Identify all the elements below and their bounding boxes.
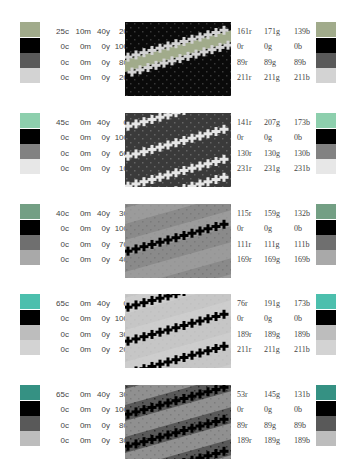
texture-dot [206,295,208,297]
cross-motif [204,349,213,352]
texture-dot [230,261,231,263]
swatch-mid-gray [316,144,336,159]
swatch-light-gray [20,325,40,340]
texture-dot [230,47,231,49]
texture-dot [198,122,200,124]
cross-motif [156,241,165,244]
texture-dot [202,158,204,160]
cross-motif [220,29,229,32]
texture-dot [210,209,212,211]
texture-dot [142,311,144,313]
texture-dot [142,39,144,41]
cross-motif [125,340,133,343]
cmyk-row: 0c0m0y100k [44,402,132,417]
texture-dot [218,174,220,176]
cross-motif [220,158,229,161]
texture-dot [194,422,196,424]
cross-motif [196,352,205,355]
texture-dot [198,114,200,116]
texture-dot [134,23,136,25]
texture-dot [138,414,140,416]
cross-motif [132,303,141,306]
swatch-black [316,401,336,416]
texture-dot [214,63,216,65]
cross-motif [164,433,173,436]
texture-dot [194,83,196,85]
texture-dot [194,174,196,176]
texture-dot [218,414,220,416]
texture-dot [146,166,148,168]
texture-dot [126,237,128,239]
cross-motif [148,299,157,302]
texture-dot [142,87,144,89]
texture-dot [146,75,148,77]
texture-dot [230,410,231,412]
texture-dot [190,71,192,73]
texture-dot [182,162,184,164]
texture-dot [134,261,136,263]
texture-dot [190,154,192,156]
texture-dot [138,166,140,168]
texture-dot [198,23,200,25]
cross-motif [196,165,205,168]
cross-motif [176,57,185,60]
texture-dot [126,386,128,388]
cross-motif [132,122,141,125]
right-swatch-stack [316,204,336,265]
texture-dot [134,114,136,116]
texture-dot [226,27,228,29]
right-swatch-stack [316,22,336,83]
texture-dot [158,351,160,353]
texture-dot [202,241,204,243]
cross-motif [132,247,141,250]
cross-motif [216,46,225,49]
texture-dot [198,303,200,305]
texture-dot [186,67,188,69]
texture-dot [134,319,136,321]
texture-dot [162,75,164,77]
texture-dot [210,363,212,365]
texture-dot [202,27,204,29]
rgb-row: 0r0g0b [237,39,319,54]
texture-dot [230,229,231,231]
texture-dot [150,261,152,263]
texture-dot [178,67,180,69]
texture-dot [190,122,192,124]
texture-dot [198,71,200,73]
texture-dot [214,245,216,247]
texture-dot [142,261,144,263]
rgb-row: 231r231g231b [237,161,319,176]
cross-motif [164,360,173,363]
swatch-black [20,310,40,325]
texture-dot [230,55,231,57]
cross-motif [140,408,149,411]
texture-dot [194,339,196,341]
texture-dot [166,245,168,247]
texture-dot [134,146,136,148]
texture-dot [178,454,180,456]
texture-dot [198,95,200,96]
texture-dot [194,134,196,136]
cross-motif [180,356,189,359]
texture-dot [134,170,136,172]
texture-dot [206,205,208,207]
texture-dot [130,347,132,349]
swatch-dark-gray [20,235,40,250]
texture-dot [138,438,140,440]
rgb-values: 161r171g139b 0r0g0b 89r89g89b 211r211g21… [237,24,319,85]
swatch-light-gray [20,159,40,174]
texture-dot [198,154,200,156]
texture-dot [230,450,231,452]
cross-motif [140,51,149,54]
cross-motif [212,452,221,455]
cmyk-values: 65c0m40y0k 0c0m0y100k 0c0m0y30k 0c0m0y20… [44,296,132,357]
texture-dot [142,79,144,81]
texture-dot [150,71,152,73]
texture-dot [218,363,220,365]
cmyk-values: 65c0m40y30k 0c0m0y100k 0c0m0y80k 0c0m0y3… [44,387,132,448]
texture-dot [158,71,160,73]
cross-motif [148,365,157,368]
texture-dot [182,221,184,223]
cross-motif [140,335,149,338]
texture-dot [202,118,204,120]
